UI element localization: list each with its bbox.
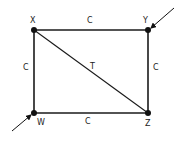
node-label-z: Z <box>145 119 151 128</box>
edge-x-z-diagonal <box>34 30 148 113</box>
node-y <box>145 27 151 33</box>
node-x <box>31 27 37 33</box>
truss-diagram: X Y W Z C C T C C <box>0 0 183 141</box>
edge-label-w-z: C <box>85 117 91 126</box>
node-label-x: X <box>30 16 36 25</box>
node-label-y: Y <box>142 16 148 25</box>
node-z <box>145 110 151 116</box>
node-w <box>31 110 37 116</box>
edge-label-y-z: C <box>153 63 159 72</box>
load-arrow-y <box>151 8 174 28</box>
edge-label-x-z: T <box>89 62 95 71</box>
diagram-canvas: X Y W Z C C T C C <box>0 0 183 141</box>
node-label-w: W <box>37 118 45 127</box>
edge-label-x-y: C <box>87 16 93 25</box>
load-arrow-w <box>12 115 31 131</box>
edge-label-x-w: C <box>23 63 29 72</box>
